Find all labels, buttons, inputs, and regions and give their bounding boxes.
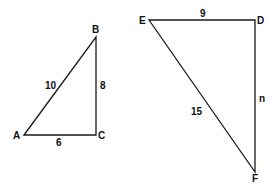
side-label-df: n [259, 93, 265, 104]
triangle-def: E D F 9 15 n [139, 8, 265, 184]
triangle-abc-outline [24, 37, 96, 135]
side-label-ef: 15 [191, 106, 203, 117]
side-label-bc: 8 [100, 80, 106, 91]
vertex-label-a: A [13, 130, 20, 141]
diagram-canvas: A B C 10 8 6 E D F 9 15 n [0, 0, 275, 184]
triangle-def-outline [149, 20, 255, 172]
vertex-label-f: F [252, 173, 258, 184]
vertex-label-c: C [98, 130, 105, 141]
vertex-label-b: B [92, 24, 99, 35]
triangle-abc: A B C 10 8 6 [13, 24, 106, 148]
vertex-label-d: D [257, 15, 264, 26]
side-label-ac: 6 [56, 137, 62, 148]
side-label-ed: 9 [200, 8, 206, 19]
side-label-ab: 10 [45, 80, 57, 91]
vertex-label-e: E [139, 15, 146, 26]
